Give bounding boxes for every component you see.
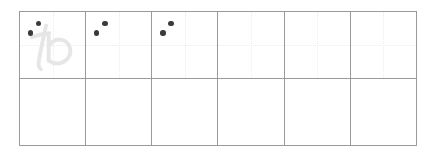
practice-cell[interactable] <box>285 12 351 79</box>
practice-cell[interactable] <box>20 12 86 79</box>
stroke-start-dot <box>102 21 107 26</box>
practice-cell[interactable] <box>152 79 218 146</box>
practice-cell[interactable] <box>351 12 417 79</box>
practice-cell[interactable] <box>218 79 284 146</box>
practice-grid <box>19 11 417 146</box>
practice-cell[interactable] <box>86 12 152 79</box>
stroke-start-dot <box>36 21 41 26</box>
practice-cell[interactable] <box>351 79 417 146</box>
practice-cell[interactable] <box>152 12 218 79</box>
stroke-start-dot <box>94 30 99 35</box>
practice-cell[interactable] <box>285 79 351 146</box>
stroke-start-dot <box>160 30 165 35</box>
practice-cell[interactable] <box>20 79 86 146</box>
character-trace-guide <box>20 12 85 78</box>
hiragana-practice-worksheet <box>0 0 435 157</box>
practice-cell[interactable] <box>86 79 152 146</box>
stroke-start-dot <box>28 30 33 35</box>
practice-cell[interactable] <box>218 12 284 79</box>
stroke-start-dot <box>168 21 173 26</box>
